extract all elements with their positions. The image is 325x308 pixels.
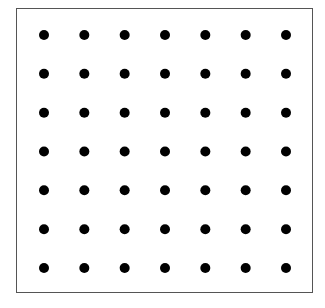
grid-dot [120,108,130,118]
grid-dot [160,108,170,118]
grid-dot [200,30,210,40]
grid-dot [79,108,89,118]
grid-dot [39,263,49,273]
grid-dot [160,147,170,157]
grid-dot [39,147,49,157]
grid-dot [281,185,291,195]
grid-dot [39,69,49,79]
grid-dot [241,147,251,157]
grid-dot [241,30,251,40]
grid-dot [39,185,49,195]
grid-dot [241,108,251,118]
grid-dot [79,185,89,195]
grid-dot [281,147,291,157]
grid-dot [79,263,89,273]
grid-dot [160,30,170,40]
grid-dot [241,263,251,273]
grid-dot [281,224,291,234]
grid-dot [200,108,210,118]
grid-dot [200,185,210,195]
grid-dot [120,224,130,234]
grid-dot [200,263,210,273]
grid-dot [120,30,130,40]
grid-dot [120,263,130,273]
grid-dot [200,69,210,79]
grid-dot [160,224,170,234]
grid-dot [160,185,170,195]
grid-dot [79,69,89,79]
grid-dot [79,224,89,234]
grid-dot [281,108,291,118]
grid-dot [39,30,49,40]
grid-dot [79,147,89,157]
grid-dot [281,69,291,79]
grid-dot [160,263,170,273]
grid-dot [120,185,130,195]
grid-dot [79,30,89,40]
dot-grid [0,0,325,308]
grid-dot [39,224,49,234]
grid-dot [241,224,251,234]
grid-dot [120,69,130,79]
grid-dot [200,147,210,157]
grid-dot [281,263,291,273]
grid-dot [281,30,291,40]
grid-dot [200,224,210,234]
grid-dot [241,185,251,195]
grid-dot [241,69,251,79]
grid-dot [39,108,49,118]
grid-dot [160,69,170,79]
grid-dot [120,147,130,157]
